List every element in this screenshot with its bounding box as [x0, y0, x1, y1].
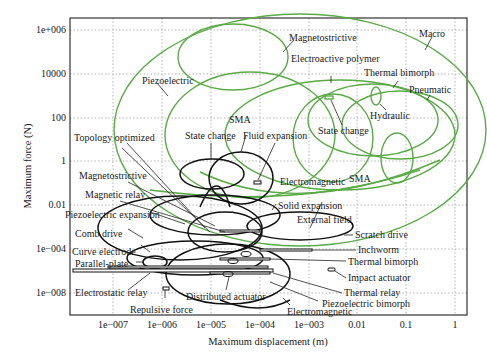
x-tick: 1e−005: [196, 319, 226, 330]
x-tick: 0.01: [348, 319, 366, 330]
bar-thermal-relay: [210, 272, 270, 274]
x-axis-title: Maximum displacement (m): [208, 336, 328, 348]
x-axis-ticks: 1e−007 1e−006 1e−005 1e−004 1e−003 0.01 …: [98, 319, 458, 330]
x-tick: 1e−003: [294, 319, 324, 330]
label-curve-electrode: Curve electrode: [72, 246, 136, 257]
bar-magnetostrictive: [220, 230, 260, 232]
label-repulsive-force: Repulsive force: [130, 304, 194, 315]
bar-curve-electrode: [108, 266, 268, 268]
y-tick: 0.01: [49, 199, 67, 210]
label-magnetostrictive: Magnetostrictive: [289, 32, 357, 43]
state-change-marker: [325, 96, 333, 99]
y-tick: 1e−004: [36, 243, 66, 254]
bar-inchworm: [260, 249, 312, 251]
label-magnetic-relay: Magnetic relay: [85, 189, 145, 200]
label-distributed-actuator: Distributed actuator: [186, 291, 266, 302]
label-thermal-bimorph-micro: Thermal bimorph: [348, 256, 418, 267]
marker-external-field: [241, 252, 251, 257]
label-solid-expansion: Solid expansion: [278, 200, 342, 211]
label-piezoelectric: Piezoelectric: [142, 75, 194, 86]
label-pneumatic: Pneumatic: [409, 84, 452, 95]
y-axis-ticks: 1e+006 10000 100 1 0.01 1e−004 1e−008: [36, 24, 66, 298]
label-electromagnetic: Electromagnetic: [280, 176, 346, 187]
label-magnetostrictive-micro: Magnetostrictive: [79, 170, 147, 181]
label-state-change: State change: [185, 130, 236, 141]
x-tick: 1: [453, 319, 458, 330]
label-comb-drive: Comb drive: [75, 228, 123, 239]
region-state-change-micro: [180, 159, 244, 189]
x-tick: 1e−007: [98, 319, 128, 330]
label-electrostatic-relay: Electrostatic relay: [75, 287, 147, 298]
y-tick: 1e−008: [36, 287, 66, 298]
x-tick: 0.1: [400, 319, 413, 330]
bar-thermal-bimorph: [220, 258, 270, 260]
label-electromagnetic-micro: Electromagnetic: [287, 306, 353, 317]
label-state-change-macro: State change: [318, 125, 369, 136]
label-fluid-expansion: Fluid expansion: [243, 130, 307, 141]
label-parallel-plate: Parallel-plate: [75, 258, 129, 269]
y-tick: 1: [61, 155, 66, 166]
y-axis-title: Maximum force (N): [22, 123, 34, 209]
label-impact-actuator: Impact actuator: [348, 272, 411, 283]
region-hydraulic: [371, 87, 381, 105]
label-topology-optimized: Topology optimized: [74, 132, 155, 143]
actuator-force-displacement-chart: 1e+006 10000 100 1 0.01 1e−004 1e−008 1e…: [0, 0, 487, 359]
label-sma-macro: SMA: [349, 173, 371, 184]
label-sma: SMA: [229, 114, 251, 125]
marker-impact-actuator: [328, 268, 335, 271]
label-thermal-relay: Thermal relay: [344, 287, 400, 298]
x-tick: 1e−006: [147, 319, 177, 330]
label-piezoelectric-expansion: Piezoelectric expansion: [65, 209, 160, 220]
region-magnetostrictive: [178, 24, 288, 90]
label-inchworm: Inchworm: [358, 244, 399, 255]
x-tick: 1e−004: [245, 319, 275, 330]
label-thermal-bimorph: Thermal bimorph: [364, 67, 434, 78]
label-external-field: External field: [297, 214, 352, 225]
marker-repulsive-force: [163, 287, 169, 290]
y-tick: 1e+006: [36, 24, 66, 35]
label-scratch-drive: Scratch drive: [355, 229, 409, 240]
label-electroactive-polymer: Electroactive polymer: [291, 53, 380, 64]
label-macro: Macro: [419, 28, 445, 39]
y-tick: 100: [51, 112, 66, 123]
y-tick: 10000: [41, 68, 66, 79]
label-hydraulic: Hydraulic: [370, 110, 411, 121]
